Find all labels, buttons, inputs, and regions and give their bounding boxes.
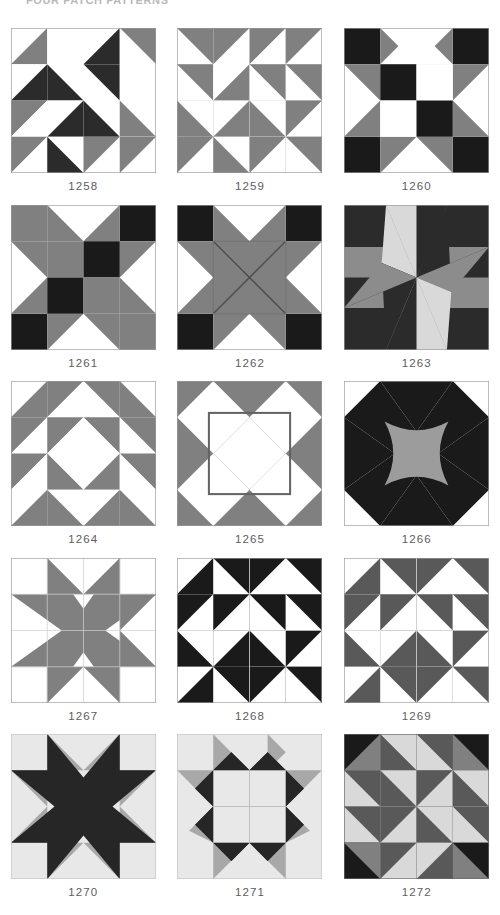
block-cell: 1262 [167,205,334,382]
block-cell: 1258 [0,28,167,205]
quilt-block-1258[interactable] [11,28,156,173]
block-cell: 1259 [167,28,334,205]
block-cell: 1272 [333,734,500,911]
block-caption: 1264 [68,533,98,545]
quilt-block-1260[interactable] [344,28,489,173]
quilt-block-1265[interactable] [177,381,322,526]
quilt-block-1263[interactable] [344,205,489,350]
block-caption: 1261 [68,357,98,369]
quilt-block-1268[interactable] [177,558,322,703]
block-caption: 1268 [235,710,265,722]
block-caption: 1272 [402,886,432,898]
quilt-block-1264[interactable] [11,381,156,526]
quilt-block-1267[interactable] [11,558,156,703]
block-caption: 1259 [235,180,265,192]
block-cell: 1269 [333,558,500,735]
block-caption: 1271 [235,886,265,898]
block-caption: 1258 [68,180,98,192]
block-cell: 1271 [167,734,334,911]
block-caption: 1267 [68,710,98,722]
quilt-block-1269[interactable] [344,558,489,703]
block-cell: 1265 [167,381,334,558]
block-cell: 1266 [333,381,500,558]
quilt-block-1266[interactable] [344,381,489,526]
quilt-block-1270[interactable] [11,734,156,879]
quilt-block-1261[interactable] [11,205,156,350]
block-cell: 1270 [0,734,167,911]
quilt-block-1262[interactable] [177,205,322,350]
block-caption: 1265 [235,533,265,545]
quilt-block-grid: 1258 [0,28,500,911]
block-cell: 1264 [0,381,167,558]
page-title: FOUR PATCH PATTERNS [26,0,169,6]
block-cell: 1268 [167,558,334,735]
block-caption: 1260 [402,180,432,192]
block-caption: 1266 [402,533,432,545]
block-caption: 1269 [402,710,432,722]
quilt-block-1272[interactable] [344,734,489,879]
block-cell: 1261 [0,205,167,382]
block-cell: 1260 [333,28,500,205]
block-caption: 1263 [402,357,432,369]
block-cell: 1263 [333,205,500,382]
block-cell: 1267 [0,558,167,735]
block-caption: 1262 [235,357,265,369]
quilt-block-1271[interactable] [177,734,322,879]
block-caption: 1270 [68,886,98,898]
quilt-block-1259[interactable] [177,28,322,173]
